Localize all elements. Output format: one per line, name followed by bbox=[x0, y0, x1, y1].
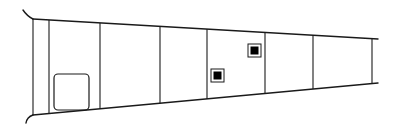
panel-outline bbox=[23, 10, 378, 123]
top-edge bbox=[33, 19, 378, 39]
panel-features bbox=[54, 44, 261, 110]
inspection-port-1 bbox=[211, 69, 224, 82]
inspection-port-2 bbox=[248, 44, 261, 57]
tapered-panel-diagram bbox=[0, 0, 404, 132]
access-panel bbox=[54, 74, 89, 110]
root-flare-top bbox=[23, 10, 33, 19]
section-lines bbox=[33, 19, 372, 115]
root-flare-bottom bbox=[26, 115, 33, 123]
